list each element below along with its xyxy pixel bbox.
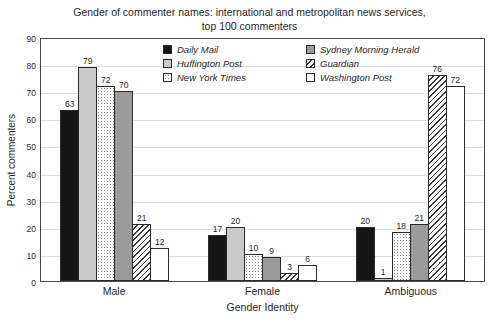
legend-swatch-icon bbox=[163, 73, 172, 82]
bar-value-label: 76 bbox=[432, 64, 441, 74]
y-tick-label: 40 bbox=[27, 170, 36, 180]
legend-item-sydney-morning-herald: Sydney Morning Herald bbox=[306, 42, 419, 56]
bar-washington-post-female: 6 bbox=[298, 265, 317, 281]
legend-item-washington-post: Washington Post bbox=[306, 70, 419, 84]
legend-swatch-icon bbox=[306, 59, 315, 68]
legend-swatch-icon bbox=[306, 45, 315, 54]
legend-column: Daily MailHuffington PostNew York Times bbox=[163, 42, 306, 84]
y-tick-label: 70 bbox=[27, 88, 36, 98]
bar-new-york-times-female: 10 bbox=[244, 254, 263, 281]
x-axis-tick-labels: MaleFemaleAmbiguous bbox=[40, 285, 485, 297]
bar-guardian-male: 21 bbox=[132, 224, 151, 281]
bar-value-label: 9 bbox=[269, 246, 274, 256]
bar-value-label: 21 bbox=[414, 213, 423, 223]
legend-label: Washington Post bbox=[320, 72, 392, 83]
legend-item-huffington-post: Huffington Post bbox=[163, 56, 306, 70]
bar-value-label: 18 bbox=[396, 221, 405, 231]
bar-value-label: 20 bbox=[360, 216, 369, 226]
bar-chart: Gender of commenter names: international… bbox=[0, 0, 499, 322]
x-axis-label: Gender Identity bbox=[40, 301, 485, 313]
y-tick-label: 30 bbox=[27, 197, 36, 207]
y-tick-label: 90 bbox=[27, 34, 36, 44]
bar-value-label: 70 bbox=[119, 80, 128, 90]
bar-value-label: 10 bbox=[249, 243, 258, 253]
bar-sydney-morning-herald-male: 70 bbox=[114, 91, 133, 281]
bar-daily-mail-female: 17 bbox=[208, 235, 227, 281]
y-tick-label: 20 bbox=[27, 224, 36, 234]
bar-value-label: 72 bbox=[101, 75, 110, 85]
bar-guardian-female: 3 bbox=[280, 273, 299, 281]
legend-label: Huffington Post bbox=[177, 58, 242, 69]
legend-label: Sydney Morning Herald bbox=[320, 44, 419, 55]
plot-area: 0102030405060708090 63797270211217201093… bbox=[40, 38, 485, 282]
legend-label: Guardian bbox=[320, 58, 359, 69]
legend-item-daily-mail: Daily Mail bbox=[163, 42, 306, 56]
legend-swatch-icon bbox=[163, 59, 172, 68]
bar-huffington-post-female: 20 bbox=[226, 227, 245, 281]
legend-column: Sydney Morning HeraldGuardianWashington … bbox=[306, 42, 419, 84]
bar-value-label: 1 bbox=[381, 267, 386, 277]
bar-huffington-post-ambiguous: 1 bbox=[374, 278, 393, 281]
x-tick-label-ambiguous: Ambiguous bbox=[337, 285, 485, 297]
bar-value-label: 20 bbox=[231, 216, 240, 226]
y-axis-label: Percent commenters bbox=[6, 114, 17, 206]
bar-new-york-times-ambiguous: 18 bbox=[392, 232, 411, 281]
bar-washington-post-male: 12 bbox=[150, 248, 169, 281]
y-tick-label: 0 bbox=[31, 278, 36, 288]
y-tick-label: 60 bbox=[27, 115, 36, 125]
legend-item-new-york-times: New York Times bbox=[163, 70, 306, 84]
y-tick-label: 50 bbox=[27, 142, 36, 152]
chart-title-line2: top 100 commenters bbox=[0, 20, 499, 34]
legend: Daily MailHuffington PostNew York TimesS… bbox=[163, 42, 419, 84]
bar-daily-mail-male: 63 bbox=[60, 110, 79, 281]
bar-sydney-morning-herald-ambiguous: 21 bbox=[410, 224, 429, 281]
legend-swatch-icon bbox=[163, 45, 172, 54]
bar-value-label: 17 bbox=[213, 224, 222, 234]
y-tick-label: 80 bbox=[27, 61, 36, 71]
legend-swatch-icon bbox=[306, 73, 315, 82]
y-tick-label: 10 bbox=[27, 251, 36, 261]
bar-value-label: 12 bbox=[155, 237, 164, 247]
legend-label: New York Times bbox=[177, 72, 246, 83]
bar-new-york-times-male: 72 bbox=[96, 86, 115, 281]
bar-washington-post-ambiguous: 72 bbox=[446, 86, 465, 281]
bar-value-label: 63 bbox=[65, 99, 74, 109]
x-tick-label-female: Female bbox=[188, 285, 336, 297]
x-tick-label-male: Male bbox=[40, 285, 188, 297]
bar-guardian-ambiguous: 76 bbox=[428, 75, 447, 281]
bar-value-label: 6 bbox=[305, 254, 310, 264]
bar-value-label: 79 bbox=[83, 56, 92, 66]
legend-label: Daily Mail bbox=[177, 44, 218, 55]
chart-title-line1: Gender of commenter names: international… bbox=[0, 6, 499, 20]
bar-value-label: 3 bbox=[287, 262, 292, 272]
bar-value-label: 72 bbox=[450, 75, 459, 85]
bar-huffington-post-male: 79 bbox=[78, 67, 97, 281]
bar-value-label: 21 bbox=[137, 213, 146, 223]
bar-sydney-morning-herald-female: 9 bbox=[262, 257, 281, 281]
chart-title: Gender of commenter names: international… bbox=[0, 0, 499, 34]
bar-daily-mail-ambiguous: 20 bbox=[356, 227, 375, 281]
legend-item-guardian: Guardian bbox=[306, 56, 419, 70]
